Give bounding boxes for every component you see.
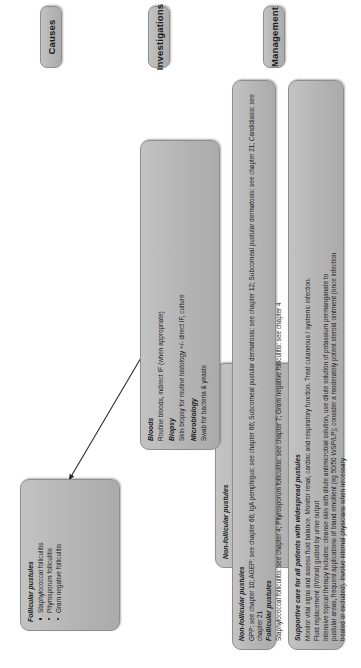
stage-label-investigations: Investigations — [148, 6, 170, 68]
management-follicular-heading: Follicular pustules — [265, 88, 274, 641]
investigations-biopsy-heading: Biopsy — [168, 148, 177, 441]
supportive-care-line: treated or excluded). Involve internal p… — [339, 88, 347, 641]
investigations-microbiology-heading: Microbiology — [190, 148, 199, 441]
management-non-follicular-heading: Non-follicular pustules — [238, 88, 247, 641]
supportive-care-line: Monitor vital signs and assess fluid bal… — [304, 88, 312, 641]
causes-follicular-heading: Follicular pustules — [27, 487, 36, 622]
investigations-microbiology-line: Swab for bacteria & yeasts — [200, 148, 208, 441]
causes-follicular-box: Follicular pustules Staphylococcal folli… — [20, 479, 120, 631]
list-item: Gram negative folliculitis — [55, 487, 63, 613]
stage-label-causes: Causes — [40, 6, 62, 68]
management-supportive-box: Supportive care for all patients with wi… — [288, 80, 344, 650]
supportive-care-line: pustular areas, frequent applications of… — [330, 88, 338, 641]
supportive-care-heading: Supportive care for all patients with wi… — [294, 88, 303, 641]
management-chapters-box: Non-follicular pustules GPP: see chapter… — [232, 80, 276, 650]
investigations-biopsy-line: Skin biopsy for routine histology +/- di… — [178, 148, 186, 441]
investigations-bloods-heading: Bloods — [147, 148, 156, 441]
causes-non-follicular-heading: Non-follicular pustules — [222, 371, 231, 559]
list-item: Staphylococcal folliculitis — [37, 487, 45, 613]
supportive-care-line: Intensive topical therapy includes: clea… — [322, 88, 330, 641]
stage-label-management: Management — [263, 6, 285, 68]
supportive-care-line: Fluid replacement (IV/oral) guided by ur… — [313, 88, 321, 641]
list-item: Pityrosporum folliculitis — [46, 487, 54, 613]
causes-follicular-list: Staphylococcal folliculitis Pityrosporum… — [37, 487, 63, 622]
management-follicular-line: Staphylococcal folliculitis: see chapter… — [275, 88, 283, 641]
management-non-follicular-line: GPP: see chapter 10; AGEP: see chapter 6… — [248, 88, 265, 641]
investigations-bloods-line: Routine bloods, indirect IF (when approp… — [157, 148, 165, 441]
flowchart-canvas: Widespread Pustules in adults Causes Inv… — [0, 0, 361, 668]
connector-title-to-follicular — [69, 351, 145, 480]
investigations-box: Bloods Routine bloods, indirect IF (when… — [140, 140, 220, 450]
